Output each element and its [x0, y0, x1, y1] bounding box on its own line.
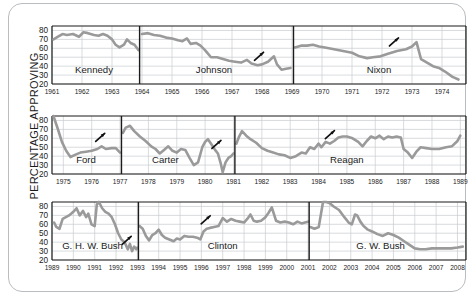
- x-tick-label: 1998: [237, 264, 252, 271]
- x-tick-label: 2001: [301, 264, 316, 271]
- president-label-nixon: Nixon: [367, 64, 392, 75]
- x-tick-label: 1993: [130, 264, 145, 271]
- president-label-gwbush: G. W. Bush: [356, 240, 405, 251]
- x-tick-label: 2005: [386, 264, 401, 271]
- president-label-reagan: Reagan: [330, 154, 364, 165]
- y-tick-label: 70: [39, 211, 49, 220]
- x-tick-label: 2004: [365, 264, 380, 271]
- president-label-ford: Ford: [76, 154, 96, 165]
- president-label-carter: Carter: [152, 154, 179, 165]
- x-tick-label: 1991: [87, 264, 102, 271]
- chart-row-3: 2030405060708019891990199119921993199419…: [39, 202, 466, 271]
- y-tick-label: 80: [39, 116, 49, 125]
- x-tick-label: 1985: [340, 178, 355, 185]
- x-tick-label: 1966: [195, 88, 210, 95]
- y-tick-label: 50: [39, 143, 49, 152]
- approval-ratings-figure: PERCENTAGE APPROVING 2030405060708019611…: [0, 0, 476, 299]
- x-tick-label: 1995: [173, 264, 188, 271]
- x-tick-label: 1978: [141, 178, 156, 185]
- x-tick-label: 1988: [425, 178, 440, 185]
- y-tick-label: 50: [39, 53, 49, 62]
- x-tick-label: 1977: [113, 178, 128, 185]
- x-tick-label: 1996: [194, 264, 209, 271]
- y-tick-label: 60: [39, 220, 49, 229]
- y-tick-label: 70: [39, 125, 49, 134]
- x-tick-label: 2002: [322, 264, 337, 271]
- y-tick-label: 60: [39, 134, 49, 143]
- x-tick-label: 1990: [66, 264, 81, 271]
- x-tick-label: 1987: [396, 178, 411, 185]
- x-tick-label: 1969: [285, 88, 300, 95]
- y-tick-label: 40: [39, 152, 49, 161]
- y-tick-label: 80: [39, 26, 49, 35]
- presidential-approval-chart: 2030405060708019611962196319641965196619…: [0, 0, 476, 299]
- president-label-ghwbush: G. H. W. Bush: [62, 240, 123, 251]
- x-tick-label: 1965: [165, 88, 180, 95]
- president-label-kennedy: Kennedy: [75, 64, 113, 75]
- y-tick-label: 60: [39, 44, 49, 53]
- x-tick-label: 1981: [226, 178, 241, 185]
- trend-arrow-clinton: [201, 216, 210, 224]
- x-tick-label: 1964: [135, 88, 150, 95]
- x-tick-label: 1983: [283, 178, 298, 185]
- chart-row-2: 2030405060708019751976197719781979198019…: [39, 116, 468, 185]
- x-tick-label: 1967: [225, 88, 240, 95]
- x-tick-label: 1974: [435, 88, 450, 95]
- y-tick-label: 80: [39, 202, 49, 211]
- president-label-johnson: Johnson: [196, 64, 232, 75]
- x-tick-label: 2008: [450, 264, 465, 271]
- x-tick-label: 1979: [169, 178, 184, 185]
- x-tick-label: 1989: [453, 178, 468, 185]
- series-line-kennedy: [54, 32, 139, 50]
- y-tick-label: 40: [39, 238, 49, 247]
- y-tick-label: 20: [39, 170, 49, 179]
- x-tick-label: 1973: [405, 88, 420, 95]
- x-tick-label: 1961: [45, 88, 60, 95]
- y-tick-label: 30: [39, 161, 49, 170]
- x-tick-label: 1997: [215, 264, 230, 271]
- x-tick-label: 1989: [45, 264, 60, 271]
- x-tick-label: 1999: [258, 264, 273, 271]
- x-tick-label: 2007: [429, 264, 444, 271]
- x-tick-label: 1992: [109, 264, 124, 271]
- y-tick-label: 70: [39, 35, 49, 44]
- president-label-clinton: Clinton: [208, 240, 238, 251]
- trend-arrow-ford: [96, 133, 105, 141]
- x-tick-label: 2006: [407, 264, 422, 271]
- x-tick-label: 2003: [343, 264, 358, 271]
- x-tick-label: 1976: [84, 178, 99, 185]
- x-tick-label: 1970: [315, 88, 330, 95]
- y-axis-label: PERCENTAGE APPROVING: [28, 6, 40, 246]
- y-tick-label: 40: [39, 62, 49, 71]
- x-tick-label: 1962: [75, 88, 90, 95]
- x-tick-label: 1980: [198, 178, 213, 185]
- x-tick-label: 1982: [254, 178, 269, 185]
- x-tick-label: 1984: [311, 178, 326, 185]
- x-tick-label: 1963: [105, 88, 120, 95]
- x-tick-label: 1986: [368, 178, 383, 185]
- x-tick-label: 1971: [345, 88, 360, 95]
- x-tick-label: 2000: [279, 264, 294, 271]
- x-tick-label: 1994: [151, 264, 166, 271]
- chart-row-1: 2030405060708019611962196319641965196619…: [39, 26, 466, 95]
- y-tick-label: 30: [39, 247, 49, 256]
- y-tick-label: 50: [39, 229, 49, 238]
- trend-arrow-reagan: [325, 131, 334, 139]
- x-tick-label: 1975: [56, 178, 71, 185]
- y-tick-label: 30: [39, 71, 49, 80]
- x-tick-label: 1968: [255, 88, 270, 95]
- x-tick-label: 1972: [375, 88, 390, 95]
